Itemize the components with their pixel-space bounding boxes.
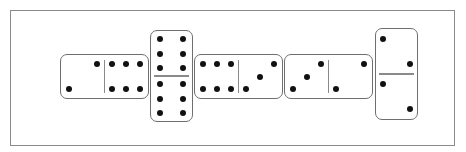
- domino-half-6: [151, 31, 192, 76]
- pip-dot-icon: [304, 74, 310, 80]
- pip-dot-icon: [214, 86, 220, 92]
- domino-divider: [328, 60, 330, 93]
- pip-dot-icon: [157, 81, 163, 87]
- pip-dot-icon: [407, 61, 413, 67]
- pip-dot-icon: [333, 86, 339, 92]
- pip-dot-icon: [137, 86, 143, 92]
- pip-dot-icon: [361, 61, 367, 67]
- domino-half-6: [151, 76, 192, 121]
- domino-2-6[interactable]: [60, 54, 149, 99]
- pip-dot-icon: [157, 96, 163, 102]
- domino-6-3[interactable]: [194, 54, 283, 99]
- domino-half-2: [376, 74, 417, 119]
- pip-dot-icon: [180, 51, 186, 57]
- pip-dot-icon: [271, 61, 277, 67]
- domino-half-2: [376, 29, 417, 74]
- pip-dot-icon: [109, 61, 115, 67]
- pip-dot-icon: [66, 86, 72, 92]
- pip-dot-icon: [157, 65, 163, 71]
- domino-half-2: [61, 55, 105, 98]
- pip-dot-icon: [123, 86, 129, 92]
- pip-dot-icon: [157, 36, 163, 42]
- pip-dot-icon: [180, 81, 186, 87]
- pip-dot-icon: [214, 61, 220, 67]
- pip-dot-icon: [407, 106, 413, 112]
- pip-dot-icon: [200, 61, 206, 67]
- pip-dot-icon: [200, 86, 206, 92]
- pip-dot-icon: [243, 86, 249, 92]
- pip-dot-icon: [123, 61, 129, 67]
- domino-half-3: [239, 55, 283, 98]
- pip-dot-icon: [137, 61, 143, 67]
- domino-6-6[interactable]: [150, 30, 193, 122]
- pip-dot-icon: [157, 110, 163, 116]
- domino-half-6: [195, 55, 239, 98]
- pip-dot-icon: [180, 110, 186, 116]
- domino-3-2[interactable]: [284, 54, 373, 99]
- pip-dot-icon: [290, 86, 296, 92]
- pip-dot-icon: [228, 61, 234, 67]
- domino-2-2[interactable]: [375, 28, 418, 120]
- pip-dot-icon: [380, 81, 386, 87]
- pip-dot-icon: [180, 36, 186, 42]
- pip-dot-icon: [109, 86, 115, 92]
- domino-divider: [104, 60, 106, 93]
- domino-half-6: [105, 55, 149, 98]
- domino-half-3: [285, 55, 329, 98]
- pip-dot-icon: [180, 65, 186, 71]
- pip-dot-icon: [257, 74, 263, 80]
- pip-dot-icon: [94, 61, 100, 67]
- pip-dot-icon: [228, 86, 234, 92]
- domino-divider: [238, 60, 240, 93]
- pip-dot-icon: [157, 51, 163, 57]
- domino-divider: [379, 73, 414, 75]
- pip-dot-icon: [380, 36, 386, 42]
- domino-divider: [154, 75, 189, 77]
- domino-half-2: [329, 55, 373, 98]
- pip-dot-icon: [318, 61, 324, 67]
- pip-dot-icon: [180, 96, 186, 102]
